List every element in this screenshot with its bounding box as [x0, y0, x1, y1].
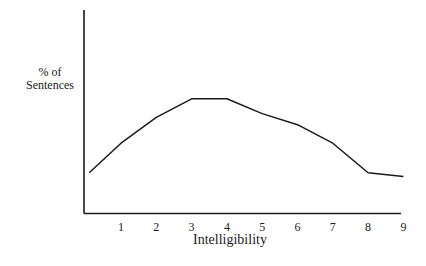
data-line [89, 99, 403, 177]
x-tick-label: 7 [330, 220, 336, 234]
x-axis-label: Intelligibility [150, 232, 310, 248]
x-tick-label: 1 [118, 220, 124, 234]
x-tick-label: 8 [365, 220, 371, 234]
x-tick-label: 9 [400, 220, 406, 234]
line-chart: 123456789 [0, 0, 426, 266]
